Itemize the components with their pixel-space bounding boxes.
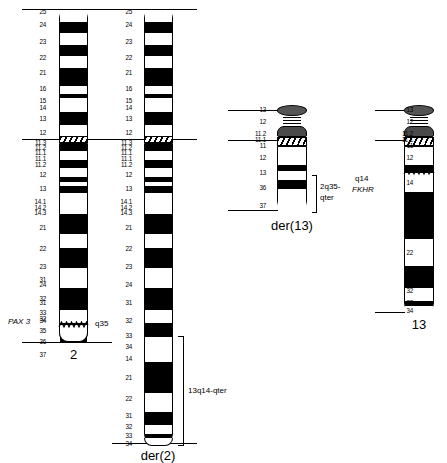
chr2-label-p16: 16 <box>10 86 46 92</box>
chr2-label-q12: 12 <box>10 172 46 178</box>
der2-band-p22 <box>145 45 172 56</box>
chr2-band-p25 <box>60 10 87 22</box>
der2-bracket-label: 13q14-qter <box>188 386 227 396</box>
der13-bracket <box>312 175 317 213</box>
chr2-band-p13 <box>60 98 87 112</box>
der2-label-q34: 34 <box>96 344 132 350</box>
der2-band-p16 <box>145 68 172 86</box>
der2-band-q32 <box>145 288 172 310</box>
der2-label-q112: 11.2 <box>96 162 132 168</box>
chr13-label-q21: 21 <box>385 205 413 211</box>
der2-label-q13: 13 <box>96 186 132 192</box>
chr2-label-p12: 12 <box>10 130 46 136</box>
der2-band-q143 <box>145 186 172 193</box>
chr13-label-p12: 12 <box>385 119 413 125</box>
chr13-label-q34: 34 <box>385 308 413 314</box>
der13-bracket-label-2: qter <box>320 193 334 203</box>
der2-band-q24 <box>145 248 172 268</box>
chr13-label-q12: 12 <box>385 155 413 161</box>
chr2-band-q143 <box>60 186 87 193</box>
chr2-label-p22: 22 <box>10 55 46 61</box>
chr2-label-q23: 23 <box>10 264 46 270</box>
der2-band-p21 <box>145 56 172 68</box>
der2-label-t14: 14 <box>96 356 132 362</box>
chr13-label-q14: 14 <box>385 180 413 186</box>
chr2-centromere-hatch <box>60 137 87 142</box>
der2-label-t32: 32 <box>96 424 132 430</box>
der2-label-p12: 12 <box>96 130 132 136</box>
der2-label-p24: 24 <box>96 22 132 28</box>
der13-band-t36 <box>278 180 306 189</box>
chr2-band-q12l <box>60 151 87 160</box>
chr2-q-arm <box>59 143 88 342</box>
der2-band-q11 <box>145 144 172 151</box>
der2-band-q11l <box>145 151 172 160</box>
der2-label-p14: 14 <box>96 105 132 111</box>
chr2-label-q22: 22 <box>10 246 46 252</box>
chr2-label-p21: 21 <box>10 70 46 76</box>
chr2-band-p24 <box>60 22 87 33</box>
der2-band-q33 <box>145 310 172 323</box>
chr13-gene-label: FKHR <box>352 186 374 194</box>
der2-centromere-hatch <box>145 137 172 142</box>
chr13-label-q32: 32 <box>385 288 413 294</box>
der2-band-t21 <box>145 362 172 393</box>
der2-label-t21: 21 <box>96 375 132 381</box>
der2-label-t22: 22 <box>96 396 132 402</box>
der13-qter-guide <box>228 210 280 211</box>
chr2-name: 2 <box>59 348 88 361</box>
der2-label-p13: 13 <box>96 116 132 122</box>
der2-p-arm <box>144 9 173 138</box>
chr2-band-q31 <box>60 268 87 288</box>
der2-band-q23 <box>145 234 172 248</box>
chr2-label-q13: 13 <box>10 186 46 192</box>
chr2-label-q37b: 37 <box>10 352 46 358</box>
der13-label-p13: 13 <box>238 107 266 113</box>
der2-q-arm <box>144 143 173 443</box>
chr2-label-p24: 24 <box>10 22 46 28</box>
chr2-band-p15 <box>60 86 87 94</box>
chr2-label-q143: 14.3 <box>10 210 46 216</box>
chr2-label-q35b: 35 <box>10 328 46 334</box>
der2-label-t31: 31 <box>96 413 132 419</box>
der2-band-t32 <box>145 425 172 434</box>
der2-band-p15 <box>145 86 172 94</box>
chr13-band-q31 <box>405 266 433 288</box>
chr13-label-q33: 33 <box>385 300 413 306</box>
der13-band-q12 <box>278 147 306 165</box>
chr13-band-q21 <box>405 192 433 239</box>
chr2-label-q36b: 36 <box>10 339 46 345</box>
der2-label-q31: 31 <box>96 300 132 306</box>
chr2-label-p25: 25 <box>10 9 46 15</box>
chr2-band-p12 <box>60 112 87 125</box>
der13-band-t37 <box>278 189 306 211</box>
der2-label-p23: 23 <box>96 39 132 45</box>
chr2-band-q32 <box>60 288 87 310</box>
der2-label-t34: 34 <box>96 441 132 447</box>
chr2-band-q12 <box>60 160 87 168</box>
chr13-name: 13 <box>389 318 447 331</box>
der2-label-q23: 23 <box>96 264 132 270</box>
der2-label-q24: 24 <box>96 282 132 288</box>
chr13-breakpoint-annotation: q14 <box>355 174 368 184</box>
der2-band-q13 <box>145 168 172 177</box>
der13-q-arm <box>277 146 307 210</box>
der2-band-q34 <box>145 323 172 337</box>
chr2-band-p22 <box>60 45 87 56</box>
der13-label-t36: 36 <box>238 185 266 191</box>
der2-label-q143: 14.3 <box>96 210 132 216</box>
chr2-band-q24 <box>60 248 87 268</box>
chr2-band-p21 <box>60 56 87 68</box>
chr2-label-p13: 13 <box>10 116 46 122</box>
der2-label-t33: 33 <box>96 433 132 439</box>
der2-label-q12: 12 <box>96 172 132 178</box>
chr2-label-q32b: 32 <box>10 296 46 302</box>
der2-band-q22 <box>145 214 172 234</box>
der2-bracket <box>178 336 184 446</box>
chr2-band-p23 <box>60 33 87 45</box>
chr13-label-q11: 11 <box>385 143 413 149</box>
chr2-breakpoint-zigzag <box>58 321 89 329</box>
der2-label-p25: 25 <box>96 9 132 15</box>
der13-label-q12: 12 <box>238 155 266 161</box>
